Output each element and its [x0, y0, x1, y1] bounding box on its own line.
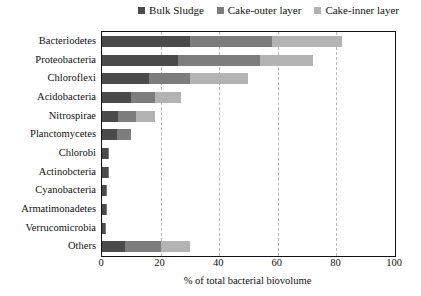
x-tick-label: 60: [272, 257, 283, 269]
legend-item: Bulk Sludge: [138, 5, 204, 16]
bar-segment: [102, 55, 178, 66]
x-tick-label: 0: [98, 257, 103, 269]
y-axis-label: Acidobacteria: [0, 91, 96, 102]
legend-label: Bulk Sludge: [149, 5, 204, 16]
y-axis-label: Verrucomicrobia: [0, 222, 96, 233]
legend-swatch-icon: [138, 7, 145, 14]
bar-segment: [108, 148, 109, 159]
legend-swatch-icon: [217, 7, 224, 14]
bar-segment: [272, 36, 342, 47]
y-axis-label: Chloroflexi: [0, 72, 96, 83]
y-axis-label: Chlorobi: [0, 147, 96, 158]
y-axis-label: Bacteriodetes: [0, 35, 96, 46]
y-axis-label: Nitrospirae: [0, 110, 96, 121]
bar-row: [102, 223, 106, 234]
bar-segment: [105, 223, 106, 234]
bar-segment: [136, 111, 155, 122]
bar-row: [102, 36, 342, 47]
bar-segment: [117, 129, 132, 140]
legend-item: Cake-inner layer: [314, 5, 399, 16]
bar-segment: [102, 241, 125, 252]
bar-row: [102, 185, 107, 196]
y-axis-label: Planctomycetes: [0, 128, 96, 139]
chart-legend: Bulk SludgeCake-outer layerCake-inner la…: [0, 5, 410, 16]
bar-row: [102, 241, 190, 252]
bar-segment: [190, 73, 249, 84]
bar-segment: [102, 129, 117, 140]
bar-row: [102, 167, 109, 178]
x-axis-tick-labels: 020406080100: [101, 257, 394, 273]
bar-row: [102, 148, 109, 159]
x-tick-label: 80: [330, 257, 341, 269]
legend-item: Cake-outer layer: [217, 5, 302, 16]
x-tick-label: 100: [386, 257, 402, 269]
bar-segment: [106, 185, 107, 196]
bar-segment: [149, 73, 190, 84]
bar-segment: [102, 111, 118, 122]
legend-label: Cake-outer layer: [228, 5, 302, 16]
bar-row: [102, 55, 313, 66]
y-axis-label: Proteobacteria: [0, 54, 96, 65]
bar-segment: [161, 241, 190, 252]
bar-row: [102, 204, 106, 215]
legend-label: Cake-inner layer: [325, 5, 399, 16]
bar-segment: [102, 92, 131, 103]
legend-swatch-icon: [314, 7, 321, 14]
y-axis-label: Others: [0, 240, 96, 251]
y-axis-label: Armatimonadetes: [0, 203, 96, 214]
y-axis-label: Actinobcteria: [0, 166, 96, 177]
bar-row: [102, 73, 248, 84]
bar-segment: [155, 92, 181, 103]
plot-area: [101, 31, 396, 257]
bar-segment: [102, 36, 190, 47]
bar-segment: [118, 111, 136, 122]
x-tick-label: 20: [154, 257, 165, 269]
bar-row: [102, 129, 131, 140]
bar-segment: [108, 167, 109, 178]
bars-layer: [102, 32, 395, 256]
stacked-bar-chart: Bulk SludgeCake-outer layerCake-inner la…: [0, 0, 421, 296]
x-axis-title: % of total bacterial biovolume: [101, 275, 394, 287]
bar-segment: [102, 73, 149, 84]
bar-segment: [190, 36, 272, 47]
bar-row: [102, 111, 155, 122]
x-tick-label: 40: [213, 257, 224, 269]
bar-segment: [178, 55, 260, 66]
bar-segment: [125, 241, 160, 252]
bar-segment: [260, 55, 313, 66]
bar-row: [102, 92, 181, 103]
y-axis-category-labels: BacteriodetesProteobacteriaChloroflexiAc…: [0, 31, 96, 255]
y-axis-label: Cyanobacteria: [0, 184, 96, 195]
bar-segment: [131, 92, 154, 103]
bar-segment: [106, 204, 107, 215]
